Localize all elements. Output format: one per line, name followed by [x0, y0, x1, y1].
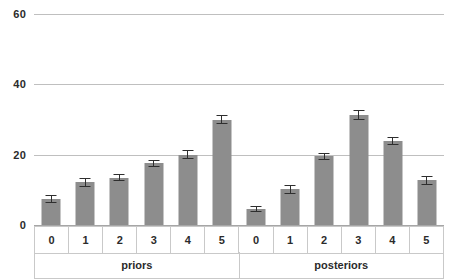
error-bar-priors-3	[148, 160, 159, 167]
category-label-posteriors-2: 2	[308, 227, 342, 253]
error-bar-cap-top	[216, 115, 227, 116]
error-bar-cap-top	[421, 176, 432, 177]
error-bar-cap-bottom	[387, 144, 398, 145]
group-label-priors: priors	[34, 252, 240, 278]
bar-posteriors-1	[281, 189, 300, 225]
error-bar-posteriors-1	[285, 185, 296, 193]
category-label-priors-4: 4	[171, 227, 205, 253]
category-label-posteriors-0: 0	[239, 227, 273, 253]
bar-slot	[273, 0, 307, 226]
error-bar-priors-1	[80, 178, 91, 187]
category-label-priors-2: 2	[103, 227, 137, 253]
bar-priors-2	[110, 178, 129, 225]
category-label-priors-0: 0	[34, 227, 69, 253]
error-bar-posteriors-2	[319, 153, 330, 160]
error-bar-cap-bottom	[421, 184, 432, 185]
error-bar-cap-bottom	[353, 119, 364, 120]
bar-slot	[376, 0, 410, 226]
category-label-posteriors-3: 3	[342, 227, 376, 253]
error-bar-priors-2	[114, 174, 125, 180]
y-tick-label-0: 0	[0, 220, 26, 231]
bar-posteriors-3	[349, 115, 368, 225]
error-bar-cap-top	[46, 195, 57, 196]
error-bar-cap-top	[80, 178, 91, 179]
error-bar-priors-5	[216, 115, 227, 125]
group-label-posteriors: posteriors	[240, 252, 445, 278]
error-bar-cap-top	[319, 153, 330, 154]
plot-area	[34, 0, 444, 226]
bar-priors-1	[76, 182, 95, 225]
category-label-posteriors-1: 1	[274, 227, 308, 253]
error-bar-cap-bottom	[148, 166, 159, 167]
category-label-priors-1: 1	[69, 227, 103, 253]
bars-layer	[34, 0, 444, 226]
error-bar-cap-top	[251, 206, 262, 207]
y-tick-label-60: 60	[0, 9, 26, 20]
error-bar-cap-bottom	[80, 186, 91, 187]
bar-slot	[205, 0, 239, 226]
error-bar-cap-bottom	[319, 159, 330, 160]
error-bar-cap-bottom	[114, 180, 125, 181]
error-bar-cap-bottom	[46, 202, 57, 203]
bar-slot	[239, 0, 273, 226]
error-bar-priors-4	[182, 150, 193, 159]
category-axis: 012345012345	[34, 226, 444, 254]
error-bar-priors-0	[46, 195, 57, 203]
y-tick-label-20: 20	[0, 149, 26, 160]
error-bar-cap-bottom	[216, 123, 227, 124]
bar-posteriors-5	[417, 180, 436, 225]
error-bar-cap-top	[148, 160, 159, 161]
error-bar-cap-bottom	[251, 211, 262, 212]
bar-slot	[171, 0, 205, 226]
error-bar-posteriors-3	[353, 110, 364, 119]
bar-posteriors-2	[315, 156, 334, 225]
y-axis: 0204060	[0, 0, 26, 278]
bar-posteriors-4	[383, 141, 402, 225]
bar-priors-5	[212, 120, 231, 226]
error-bar-posteriors-0	[251, 206, 262, 212]
category-label-posteriors-5: 5	[410, 227, 444, 253]
error-bar-posteriors-5	[421, 176, 432, 185]
bar-slot	[137, 0, 171, 226]
category-label-posteriors-4: 4	[376, 227, 410, 253]
bar-slot	[307, 0, 341, 226]
error-bar-cap-top	[353, 110, 364, 111]
group-axis: priorsposteriors	[34, 252, 444, 279]
bar-slot	[410, 0, 444, 226]
bar-priors-3	[144, 163, 163, 225]
bar-slot	[102, 0, 136, 226]
bar-slot	[34, 0, 68, 226]
bar-priors-4	[178, 155, 197, 225]
bar-slot	[342, 0, 376, 226]
error-bar-cap-top	[114, 174, 125, 175]
error-bar-cap-bottom	[182, 158, 193, 159]
error-bar-cap-bottom	[285, 193, 296, 194]
bar-slot	[68, 0, 102, 226]
category-label-priors-3: 3	[137, 227, 171, 253]
error-bar-cap-top	[387, 137, 398, 138]
category-label-priors-5: 5	[205, 227, 239, 253]
error-bar-posteriors-4	[387, 137, 398, 145]
error-bar-cap-top	[182, 150, 193, 151]
y-tick-label-40: 40	[0, 79, 26, 90]
error-bar-cap-top	[285, 185, 296, 186]
